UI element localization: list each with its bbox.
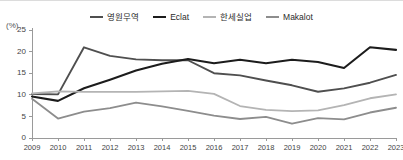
x-tick-label: 2015 [180,143,197,152]
x-tick-label: 2016 [206,143,223,152]
x-tick-label: 2018 [258,143,275,152]
x-tick-label: 2021 [336,143,353,152]
y-axis: 0510152025 [17,25,32,142]
x-tick-label: 2020 [310,143,327,152]
x-tick-label: 2017 [232,143,249,152]
series-line-2 [32,91,396,111]
operating-margin-chart: 영원무역 Eclat 한세실업 Makalot (%) 0510152025 2… [0,0,403,160]
y-tick-label: 20 [17,47,26,56]
x-tick-label: 2022 [362,143,379,152]
x-axis: 2009201020112012201320142015201620172018… [24,138,403,152]
y-tick-label: 10 [17,90,26,99]
x-tick-label: 2011 [76,143,92,152]
x-tick-label: 2023 [388,143,403,152]
x-tick-label: 2009 [24,143,41,152]
y-tick-label: 25 [17,25,26,34]
y-tick-label: 0 [22,133,27,142]
y-tick-label: 5 [22,112,27,121]
chart-plot-area: 0510152025 20092010201120122013201420152… [0,0,403,160]
x-tick-label: 2012 [102,143,119,152]
x-tick-label: 2013 [128,143,145,152]
series-line-3 [32,99,396,124]
x-tick-label: 2014 [154,143,171,152]
y-tick-label: 15 [17,68,26,77]
x-tick-label: 2010 [50,143,67,152]
series-lines [32,47,396,123]
x-tick-label: 2019 [284,143,301,152]
